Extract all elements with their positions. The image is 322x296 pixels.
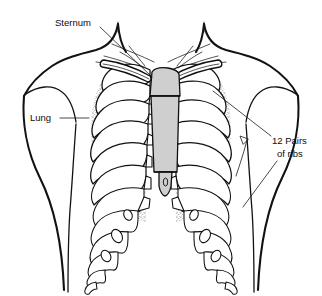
label-ribs-line2: of ribs bbox=[277, 148, 303, 159]
label-sternum: Sternum bbox=[55, 17, 91, 28]
label-lung: Lung bbox=[30, 112, 51, 123]
xiphoid-process bbox=[159, 172, 172, 196]
anatomy-figure: Sternum Lung 12 Pairs of ribs bbox=[0, 0, 322, 296]
manubrium bbox=[150, 68, 180, 96]
rib-cage-diagram: Sternum Lung 12 Pairs of ribs bbox=[0, 0, 322, 296]
label-ribs-line1: 12 Pairs bbox=[272, 135, 307, 146]
sternum-body bbox=[151, 96, 179, 172]
